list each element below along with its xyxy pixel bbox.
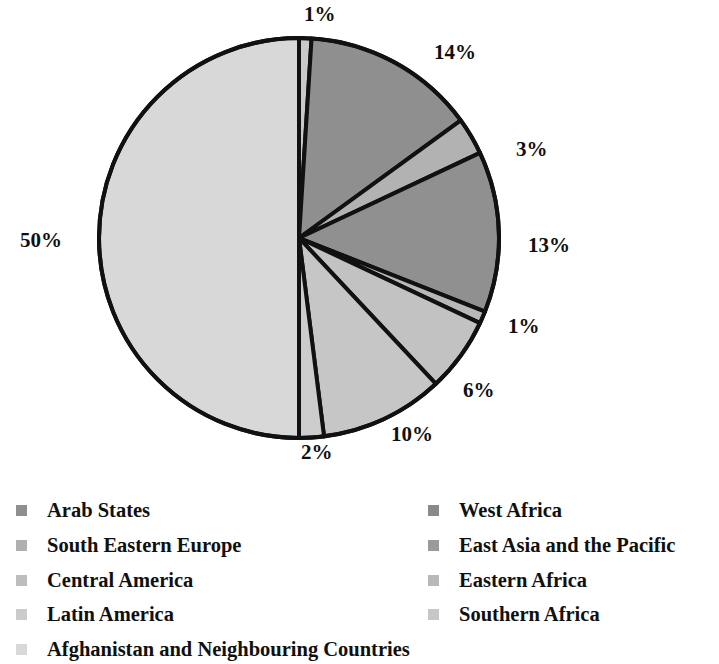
pie-chart-svg (0, 0, 719, 478)
legend-item[interactable]: East Asia and the Pacific (428, 530, 675, 560)
pie-value-label: 10% (391, 422, 433, 447)
legend-item[interactable]: Arab States (16, 495, 150, 525)
legend-item[interactable]: Central America (16, 565, 193, 595)
legend-swatch-icon (16, 644, 27, 655)
legend-swatch-icon (428, 575, 439, 586)
pie-slice (99, 38, 299, 438)
legend-swatch-icon (16, 540, 27, 551)
legend-item-label: Eastern Africa (459, 570, 587, 591)
pie-value-label: 6% (463, 378, 495, 403)
legend-item[interactable]: Latin America (16, 599, 174, 629)
pie-slice-group (99, 38, 499, 438)
chart-legend: Arab StatesSouth Eastern EuropeCentral A… (0, 487, 719, 651)
pie-value-label: 13% (528, 233, 570, 258)
legend-item-label: South Eastern Europe (47, 535, 241, 556)
legend-item-label: East Asia and the Pacific (459, 535, 675, 556)
legend-swatch-icon (428, 505, 439, 516)
legend-item-label: West Africa (459, 500, 562, 521)
legend-swatch-icon (16, 609, 27, 620)
pie-value-label: 14% (434, 40, 476, 65)
pie-value-label: 1% (508, 314, 540, 339)
pie-value-label: 2% (301, 440, 333, 465)
legend-swatch-icon (16, 505, 27, 516)
legend-item[interactable]: West Africa (428, 495, 562, 525)
pie-chart: 1%14%3%13%1%6%10%2%50% (0, 0, 719, 478)
legend-item[interactable]: South Eastern Europe (16, 530, 241, 560)
legend-item[interactable]: Afghanistan and Neighbouring Countries (16, 634, 410, 664)
legend-swatch-icon (16, 575, 27, 586)
legend-item-label: Arab States (47, 500, 150, 521)
legend-item-label: Afghanistan and Neighbouring Countries (47, 639, 410, 660)
legend-item[interactable]: Eastern Africa (428, 565, 587, 595)
pie-value-label: 1% (304, 2, 336, 27)
legend-swatch-icon (428, 540, 439, 551)
pie-value-label: 3% (516, 137, 548, 162)
legend-swatch-icon (428, 609, 439, 620)
pie-value-label: 50% (20, 228, 62, 253)
legend-item-label: Latin America (47, 604, 174, 625)
legend-item-label: Central America (47, 570, 193, 591)
legend-item-label: Southern Africa (459, 604, 600, 625)
legend-item[interactable]: Southern Africa (428, 599, 600, 629)
